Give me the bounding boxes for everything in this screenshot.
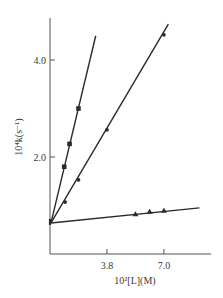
circle-marker bbox=[162, 33, 166, 37]
circle-marker bbox=[63, 200, 67, 204]
fit-line-squares bbox=[51, 36, 96, 223]
kinetics-chart: 3.87.0 2.04.0 10²[L](M) 10⁴k(s⁻¹) bbox=[0, 0, 223, 298]
triangle-marker bbox=[161, 208, 167, 213]
fit-line-circles bbox=[51, 24, 168, 223]
y-tick-label: 4.0 bbox=[34, 55, 47, 66]
axes bbox=[50, 18, 211, 254]
square-marker bbox=[76, 106, 81, 111]
x-tick-label: 3.8 bbox=[101, 260, 114, 271]
circle-marker bbox=[77, 178, 81, 182]
series-lines bbox=[51, 24, 200, 223]
y-ticks: 2.04.0 bbox=[34, 55, 56, 163]
circle-marker bbox=[105, 128, 109, 132]
y-axis-label: 10⁴k(s⁻¹) bbox=[13, 118, 25, 155]
x-ticks: 3.87.0 bbox=[101, 249, 170, 271]
square-marker bbox=[67, 142, 72, 147]
x-axis-label: 10²[L](M) bbox=[114, 275, 155, 287]
triangle-marker bbox=[147, 209, 153, 214]
square-marker bbox=[62, 164, 67, 169]
y-tick-label: 2.0 bbox=[34, 152, 47, 163]
fit-line-triangles bbox=[51, 208, 200, 223]
x-tick-label: 7.0 bbox=[158, 260, 171, 271]
